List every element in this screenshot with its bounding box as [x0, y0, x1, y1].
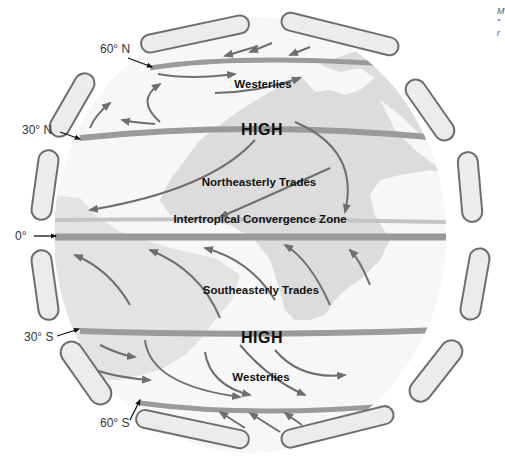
latitude-label-60n: 60° N — [100, 42, 130, 56]
latitude-label-30s: 30° S — [24, 330, 53, 344]
latitude-label-30n: 30° N — [22, 123, 52, 137]
high-pressure-south-label: HIGH — [241, 329, 283, 347]
circulation-diagram — [0, 0, 505, 467]
latitude-label-equator: 0° — [15, 229, 26, 243]
caption-line: M — [497, 6, 505, 17]
caption-line: " — [497, 17, 505, 28]
latitude-label-60s: 60° S — [100, 416, 129, 430]
northeasterly-trades-label: Northeasterly Trades — [202, 176, 316, 188]
hadley-cell-icon — [457, 151, 483, 222]
hadley-cell-icon — [459, 247, 491, 321]
itcz-label: Intertropical Convergence Zone — [173, 213, 346, 225]
southeasterly-trades-label: Southeasterly Trades — [203, 284, 319, 296]
cropped-caption-text: M " r — [497, 6, 505, 39]
caption-line: r — [497, 28, 505, 39]
westerlies-south-label: Westerlies — [232, 371, 289, 383]
high-pressure-north-label: HIGH — [241, 121, 283, 139]
westerlies-north-label: Westerlies — [234, 78, 291, 90]
